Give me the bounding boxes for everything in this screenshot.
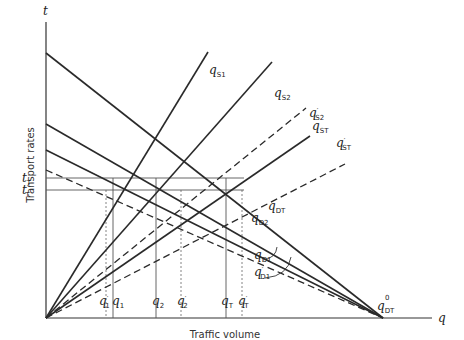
- x-axis-symbol: q: [438, 311, 446, 325]
- transport-rate-diagram: t q Transport rates Traffic volume tT: [0, 0, 464, 340]
- label-q2: q2: [152, 294, 164, 310]
- supply-curve-qS1: [46, 52, 208, 318]
- demand-curve-qD2: [46, 124, 383, 318]
- supply-curves: [46, 52, 345, 318]
- y-axis-symbol: t: [43, 4, 48, 18]
- supply-curve-qST: [46, 136, 310, 318]
- x-axis-title: Traffic volume: [189, 329, 260, 340]
- demand-labels: qDT qD2 qD1 q′D1: [251, 199, 286, 281]
- label-q1-prime: q′1: [99, 294, 110, 310]
- label-qD2: qD2: [251, 211, 269, 227]
- supply-curve-qS2-prime: [46, 108, 306, 318]
- label-qD1: qD1: [254, 248, 272, 264]
- label-q0-DT: 0 qDT: [377, 294, 395, 315]
- label-qS1: qS1: [209, 63, 226, 79]
- label-qST-prime: q′ST: [336, 136, 352, 152]
- label-qT-prime: q′T: [238, 294, 249, 310]
- label-qDT: qDT: [268, 199, 286, 215]
- label-qT: qT: [221, 294, 234, 310]
- supply-labels: qS1 qS2 q′S2 qST q′ST: [209, 63, 352, 152]
- label-q1: q1: [112, 294, 124, 310]
- demand-curve-qD1-prime: [46, 170, 383, 318]
- rate-reference-lines: [46, 178, 244, 190]
- demand-curves: [46, 53, 383, 318]
- supply-curve-qST-prime: [46, 164, 345, 318]
- demand-curve-qDT: [46, 53, 383, 318]
- label-zero: 0: [385, 294, 389, 302]
- label-q2-prime: q′2: [177, 294, 188, 310]
- label-qS2: qS2: [274, 86, 291, 102]
- volume-labels: q′1 q1 q2 q′2 qT q′T: [99, 294, 249, 310]
